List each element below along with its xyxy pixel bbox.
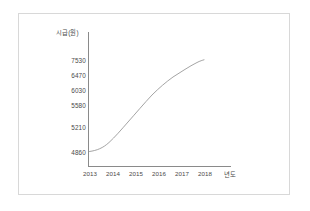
chart-figure: 시급(원) 7530 6470 6030 5580 5210 4860 2013… [0,0,310,211]
data-line-series-wage [90,60,205,152]
data-line-svg [0,0,310,211]
plot-area: 시급(원) 7530 6470 6030 5580 5210 4860 2013… [0,0,310,211]
